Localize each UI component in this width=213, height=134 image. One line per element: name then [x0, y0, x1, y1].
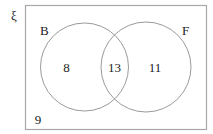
- intersection-count: 13: [108, 60, 121, 75]
- set-f-label: F: [182, 23, 189, 38]
- f-only-count: 11: [149, 60, 162, 75]
- universal-set-symbol: ξ: [11, 8, 17, 23]
- outside-count: 9: [35, 112, 42, 127]
- set-b-label: B: [40, 23, 49, 38]
- b-only-count: 8: [63, 60, 70, 75]
- venn-diagram: ξ B F 8 13 11 9: [0, 0, 213, 134]
